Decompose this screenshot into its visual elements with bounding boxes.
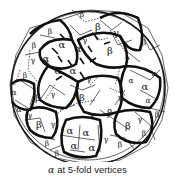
subunit-label-alpha: α: [75, 43, 82, 54]
subunit-label-beta: β: [32, 41, 36, 50]
subunit-label-beta: β: [55, 149, 59, 158]
subunit-label-gamma: γ: [51, 120, 56, 129]
subunit-label-alpha: α: [16, 105, 21, 114]
subunit-label-beta: β: [107, 107, 113, 118]
subunit-label-gamma: γ: [125, 54, 130, 63]
subunit-label-alpha: α: [67, 125, 74, 136]
subunit-label-gamma: γ: [113, 27, 119, 38]
subunit-label-beta: β: [107, 45, 113, 56]
subunit-label-gamma: γ: [90, 111, 95, 120]
subunit-label-alpha: α: [128, 76, 133, 85]
subunit-label-alpha: α: [59, 39, 66, 50]
subunit-label-gamma: γ: [28, 111, 33, 120]
subunit-label-gamma: γ: [31, 56, 36, 65]
subunit-label-beta: β: [48, 27, 52, 36]
subunit-label-beta: β: [95, 21, 101, 32]
subunit-label-gamma: γ: [51, 90, 56, 99]
subunit-label-gamma: γ: [87, 75, 92, 84]
subunit-label-beta: β: [45, 139, 49, 148]
subunit-label-beta: β: [142, 129, 146, 138]
subunit-label-beta: β: [35, 92, 41, 103]
subunit-label-beta: β: [36, 119, 42, 130]
figure-caption: α at 5-fold vertices: [0, 164, 175, 175]
subunit-label-beta: β: [79, 92, 85, 103]
subunit-label-alpha: α: [11, 88, 16, 97]
subunit-label-beta: β: [23, 71, 27, 80]
subunit-label-alpha: α: [71, 140, 78, 151]
subunit-label-beta: β: [118, 140, 122, 149]
subunit-label-gamma: γ: [118, 93, 123, 102]
subunit-label-gamma: γ: [83, 36, 88, 45]
subunit-label-alpha: α: [55, 65, 62, 76]
subunit-label-beta: β: [142, 38, 146, 47]
subunit-label-alpha: α: [145, 96, 150, 105]
subunit-label-alpha: α: [83, 127, 90, 138]
subunit-label-alpha: α: [142, 81, 149, 92]
caption-text: at 5-fold vertices: [55, 164, 127, 175]
subunit-label-alpha: α: [151, 69, 156, 78]
capsid-diagram: ββγββγββαααααγγββγβγγαααβαααγβγγββγβαααα…: [0, 0, 175, 162]
subunit-label-gamma: γ: [104, 135, 109, 144]
subunit-label-beta: β: [125, 120, 131, 131]
subunit-label-alpha: α: [70, 65, 77, 76]
subunit-label-beta: β: [155, 110, 159, 119]
subunit-label-beta: β: [80, 10, 84, 19]
subunit-label-alpha: α: [89, 142, 96, 153]
subunit-label-alpha: α: [43, 53, 50, 64]
subunit-label-gamma: γ: [138, 115, 143, 124]
